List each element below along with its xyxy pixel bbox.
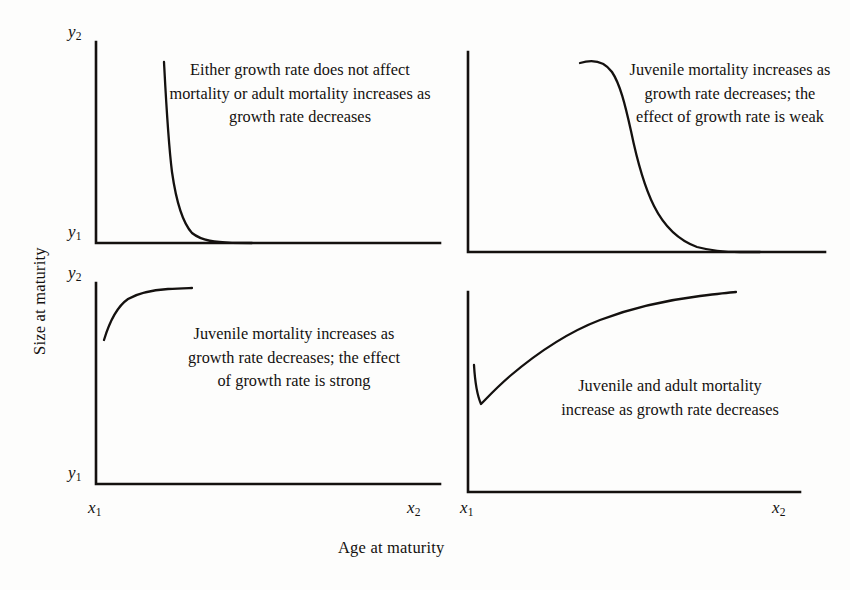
tick-sub-y2-bottom-left: 2	[76, 271, 82, 283]
tick-label-y1-top-left: y1	[68, 222, 82, 242]
figure-container: y2 y1 y2 y1 x1 x2 x1 x2 Size at maturity…	[0, 0, 850, 590]
tick-sub-x1-right: 1	[468, 506, 474, 518]
tick-sub-y2-top-left: 2	[76, 30, 82, 42]
annotation-top-left: Either growth rate does not affect morta…	[166, 58, 434, 129]
panel-bottom-left-curve	[104, 288, 192, 340]
tick-label-y2-bottom-left: y2	[68, 263, 82, 283]
y-axis-label: Size at maturity	[30, 247, 50, 355]
tick-label-x2-right: x2	[772, 498, 786, 518]
tick-label-x1-right: x1	[460, 498, 474, 518]
tick-label-y1-bottom-left: y1	[68, 463, 82, 483]
tick-label-y2-top-left: y2	[68, 22, 82, 42]
annotation-bottom-left: Juvenile mortality increases as growth r…	[188, 322, 400, 393]
tick-sub-y1-bottom-left: 1	[76, 471, 82, 483]
tick-sub-x1-left: 1	[96, 506, 102, 518]
annotation-top-right: Juvenile mortality increases as growth r…	[625, 58, 835, 129]
tick-label-x2-left: x2	[407, 498, 421, 518]
x-axis-label: Age at maturity	[338, 538, 445, 558]
tick-sub-y1-top-left: 1	[76, 230, 82, 242]
tick-sub-x2-right: 2	[780, 506, 786, 518]
tick-label-x1-left: x1	[88, 498, 102, 518]
annotation-bottom-right: Juvenile and adult mortality increase as…	[560, 374, 780, 421]
tick-sub-x2-left: 2	[415, 506, 421, 518]
